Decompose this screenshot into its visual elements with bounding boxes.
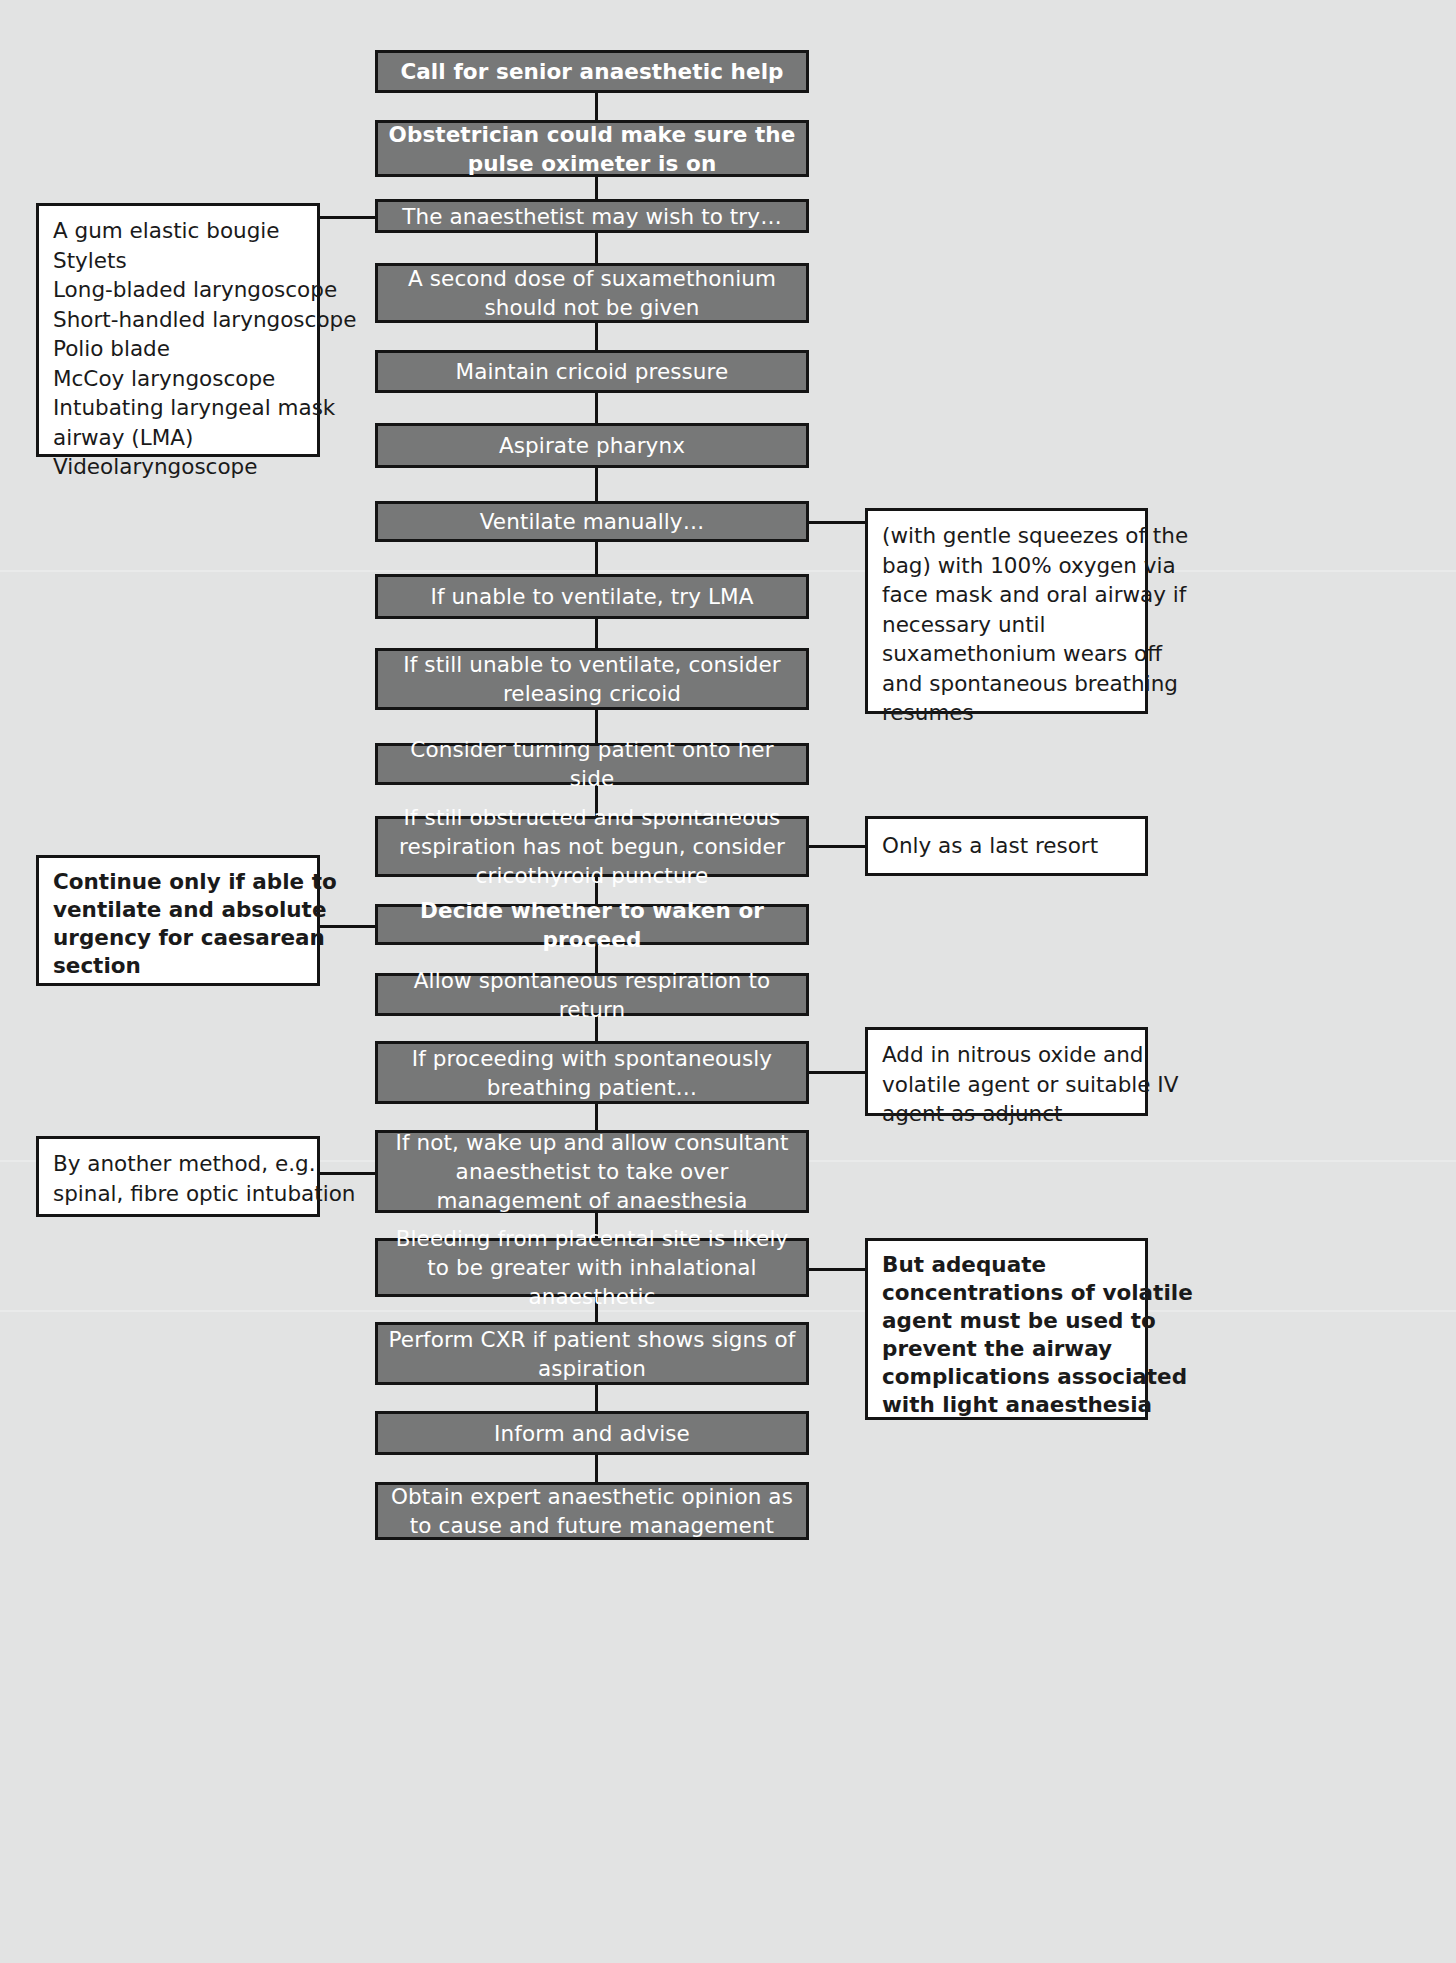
note-line: urgency for caesarean xyxy=(53,924,303,952)
connector-vertical xyxy=(595,619,598,648)
note-another-method: By another method, e.g. spinal, fibre op… xyxy=(36,1136,320,1217)
note-continue-only-if: Continue only if able to ventilate and a… xyxy=(36,855,320,986)
note-line: concentrations of volatile xyxy=(882,1279,1131,1307)
note-line: prevent the airway xyxy=(882,1335,1131,1363)
note-line: McCoy laryngoscope xyxy=(53,364,303,394)
flow-box-cricothyroid[interactable]: If still obstructed and spontaneous resp… xyxy=(375,816,809,877)
note-line: Long-bladed laryngoscope xyxy=(53,275,303,305)
connector-vertical xyxy=(595,177,598,199)
note-line: Only as a last resort xyxy=(882,831,1098,861)
note-line: suxamethonium wears off xyxy=(882,639,1131,669)
note-line: Polio blade xyxy=(53,334,303,364)
flowchart-canvas: Call for senior anaesthetic help Obstetr… xyxy=(0,0,1456,1963)
flow-box-waken-proceed[interactable]: Decide whether to waken or proceed xyxy=(375,904,809,945)
note-line: Stylets xyxy=(53,246,303,276)
flow-box-bleeding[interactable]: Bleeding from placental site is likely t… xyxy=(375,1238,809,1297)
flow-box-ventilate[interactable]: Ventilate manually… xyxy=(375,501,809,542)
connector-vertical xyxy=(595,1455,598,1482)
flow-box-cricoid[interactable]: Maintain cricoid pressure xyxy=(375,350,809,393)
note-line: Continue only if able to xyxy=(53,868,303,896)
note-add-nitrous: Add in nitrous oxide and volatile agent … xyxy=(865,1027,1148,1116)
flow-box-obstetrician[interactable]: Obstetrician could make sure the pulse o… xyxy=(375,120,809,177)
flow-box-aspirate[interactable]: Aspirate pharynx xyxy=(375,423,809,468)
note-equipment-list: A gum elastic bougie Stylets Long-bladed… xyxy=(36,203,320,457)
note-line: Short-handled laryngoscope xyxy=(53,305,303,335)
note-line: By another method, e.g. xyxy=(53,1149,303,1179)
note-line: ventilate and absolute xyxy=(53,896,303,924)
note-ventilate-detail: (with gentle squeezes of the bag) with 1… xyxy=(865,508,1148,714)
note-line: spinal, fibre optic intubation xyxy=(53,1179,303,1209)
note-line: necessary until xyxy=(882,610,1131,640)
flow-box-turn-side[interactable]: Consider turning patient onto her side xyxy=(375,743,809,785)
note-line: bag) with 100% oxygen via xyxy=(882,551,1131,581)
note-line: Videolaryngoscope xyxy=(53,452,303,482)
connector-vertical xyxy=(595,393,598,423)
flow-box-if-proceeding[interactable]: If proceeding with spontaneously breathi… xyxy=(375,1041,809,1104)
note-line: section xyxy=(53,952,303,980)
flow-box-inform[interactable]: Inform and advise xyxy=(375,1411,809,1455)
flow-box-may-wish-try[interactable]: The anaesthetist may wish to try… xyxy=(375,199,809,233)
connector-adequate-concentrations xyxy=(806,1268,868,1271)
note-line: and spontaneous breathing xyxy=(882,669,1131,699)
note-line: Add in nitrous oxide and xyxy=(882,1040,1131,1070)
note-line: agent as adjunct xyxy=(882,1099,1131,1129)
note-line: Intubating laryngeal mask xyxy=(53,393,303,423)
connector-vertical xyxy=(595,542,598,574)
note-line: with light anaesthesia xyxy=(882,1391,1131,1419)
connector-ventilate-detail xyxy=(806,521,868,524)
note-line: (with gentle squeezes of the xyxy=(882,521,1131,551)
connector-another-method xyxy=(318,1172,378,1175)
flow-box-call-help[interactable]: Call for senior anaesthetic help xyxy=(375,50,809,93)
paper-band xyxy=(0,570,1456,572)
note-line: airway (LMA) xyxy=(53,423,303,453)
flow-box-try-lma[interactable]: If unable to ventilate, try LMA xyxy=(375,574,809,619)
note-line: complications associated xyxy=(882,1363,1131,1391)
note-line: face mask and oral airway if xyxy=(882,580,1131,610)
connector-vertical xyxy=(595,93,598,120)
note-line: agent must be used to xyxy=(882,1307,1131,1335)
note-adequate-concentrations: But adequate concentrations of volatile … xyxy=(865,1238,1148,1420)
connector-vertical xyxy=(595,323,598,350)
note-line: A gum elastic bougie xyxy=(53,216,303,246)
note-line: But adequate xyxy=(882,1251,1131,1279)
note-line: resumes xyxy=(882,698,1131,728)
flow-box-allow-spont[interactable]: Allow spontaneous respiration to return xyxy=(375,973,809,1016)
connector-vertical xyxy=(595,1385,598,1411)
connector-last-resort xyxy=(806,845,868,848)
connector-vertical xyxy=(595,1104,598,1130)
connector-vertical xyxy=(595,233,598,263)
flow-box-if-not-wake[interactable]: If not, wake up and allow consultant ana… xyxy=(375,1130,809,1213)
flow-box-expert-opinion[interactable]: Obtain expert anaesthetic opinion as to … xyxy=(375,1482,809,1540)
connector-continue-only-if xyxy=(318,925,378,928)
flow-box-second-dose[interactable]: A second dose of suxamethonium should no… xyxy=(375,263,809,323)
connector-vertical xyxy=(595,468,598,501)
connector-add-nitrous xyxy=(806,1071,868,1074)
connector-equipment-list xyxy=(318,216,378,219)
note-line: volatile agent or suitable IV xyxy=(882,1070,1131,1100)
flow-box-release-cricoid[interactable]: If still unable to ventilate, consider r… xyxy=(375,648,809,710)
flow-box-cxr[interactable]: Perform CXR if patient shows signs of as… xyxy=(375,1322,809,1385)
note-last-resort: Only as a last resort xyxy=(865,816,1148,876)
